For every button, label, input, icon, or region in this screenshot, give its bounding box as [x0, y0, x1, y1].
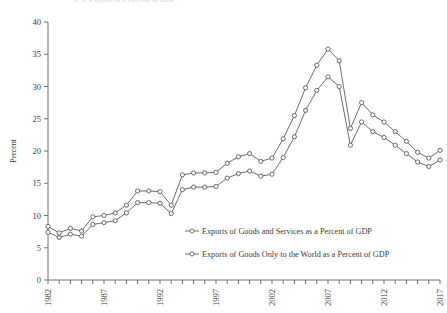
legend-marker-1	[190, 252, 194, 256]
data-point	[158, 190, 162, 194]
data-point	[382, 135, 386, 139]
data-point	[57, 231, 61, 235]
legend-marker-0	[190, 229, 194, 233]
y-tick-label: 0	[37, 275, 41, 285]
data-point	[124, 203, 128, 207]
figure-panel: U.S. Exports as a Percent of GDP 0510152…	[0, 0, 447, 313]
data-point	[136, 189, 140, 193]
x-tick-label: 1982	[43, 289, 53, 306]
data-point	[348, 126, 352, 130]
data-point	[158, 201, 162, 205]
legend-label-1: Exports of Goods Only to the World as a …	[202, 250, 390, 259]
data-point	[80, 229, 84, 233]
data-point	[315, 88, 319, 92]
data-point	[214, 184, 218, 188]
clipped-figure-title: U.S. Exports as a Percent of GDP	[74, 0, 175, 4]
data-point	[393, 130, 397, 134]
data-point	[326, 47, 330, 51]
x-tick-label: 2002	[267, 289, 277, 306]
y-tick-label: 25	[33, 114, 42, 124]
y-tick-label: 20	[33, 146, 42, 156]
data-point	[259, 159, 263, 163]
data-point	[214, 170, 218, 174]
data-point	[371, 113, 375, 117]
data-point	[416, 160, 420, 164]
data-point	[270, 156, 274, 160]
data-point	[192, 185, 196, 189]
x-tick-label: 1992	[155, 289, 165, 306]
data-point	[416, 150, 420, 154]
data-point	[102, 213, 106, 217]
data-point	[147, 201, 151, 205]
data-point	[46, 230, 50, 234]
data-point	[393, 143, 397, 147]
data-point	[337, 59, 341, 63]
y-tick-label: 30	[33, 82, 42, 92]
y-tick-label: 10	[33, 211, 42, 221]
y-tick-label: 35	[33, 49, 42, 59]
data-point	[248, 151, 252, 155]
y-tick-label: 15	[33, 178, 42, 188]
series-line-1	[48, 77, 440, 238]
data-point	[169, 203, 173, 207]
data-point	[292, 135, 296, 139]
data-point	[404, 139, 408, 143]
data-point	[382, 120, 386, 124]
data-point	[304, 86, 308, 90]
data-point	[180, 188, 184, 192]
data-point	[438, 158, 442, 162]
data-point	[203, 171, 207, 175]
data-point	[80, 234, 84, 238]
data-point	[259, 174, 263, 178]
y-tick-label: 40	[33, 17, 42, 27]
data-point	[192, 171, 196, 175]
data-point	[337, 84, 341, 88]
data-point	[102, 220, 106, 224]
data-point	[180, 173, 184, 177]
y-axis-title: Percent	[9, 138, 18, 163]
data-point	[169, 211, 173, 215]
legend-label-0: Exports of Goods and Services as a Perce…	[202, 227, 372, 236]
data-point	[225, 176, 229, 180]
data-point	[304, 108, 308, 112]
series-line-0	[48, 49, 440, 233]
data-point	[427, 164, 431, 168]
x-tick-label: 2012	[379, 289, 389, 306]
data-point	[281, 137, 285, 141]
data-point	[68, 232, 72, 236]
data-point	[292, 113, 296, 117]
data-point	[348, 143, 352, 147]
line-chart: 0510152025303540Percent19821987199219972…	[0, 0, 447, 313]
data-point	[225, 161, 229, 165]
data-point	[427, 156, 431, 160]
y-tick-label: 5	[37, 243, 41, 253]
data-point	[57, 235, 61, 239]
data-point	[113, 211, 117, 215]
data-point	[46, 224, 50, 228]
data-point	[270, 172, 274, 176]
x-tick-label: 2007	[323, 289, 333, 306]
data-point	[315, 63, 319, 67]
data-point	[404, 151, 408, 155]
data-point	[147, 189, 151, 193]
data-point	[248, 169, 252, 173]
data-point	[136, 201, 140, 205]
data-point	[91, 215, 95, 219]
data-point	[124, 211, 128, 215]
data-point	[113, 219, 117, 223]
data-point	[236, 171, 240, 175]
data-point	[281, 155, 285, 159]
data-point	[68, 226, 72, 230]
data-point	[360, 101, 364, 105]
x-tick-label: 1997	[211, 289, 221, 306]
data-point	[203, 185, 207, 189]
data-point	[360, 120, 364, 124]
x-tick-label: 2017	[435, 289, 445, 306]
data-point	[438, 148, 442, 152]
data-point	[236, 155, 240, 159]
data-point	[326, 75, 330, 79]
data-point	[91, 222, 95, 226]
x-tick-label: 1987	[99, 289, 109, 306]
data-point	[371, 130, 375, 134]
